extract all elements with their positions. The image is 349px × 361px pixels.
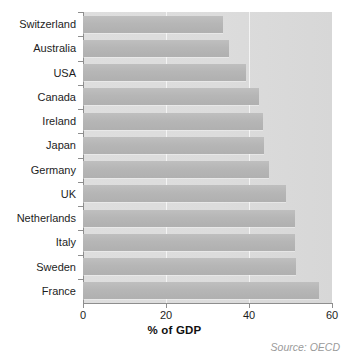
bar-row	[83, 109, 332, 133]
x-axis-tick-label: 60	[326, 309, 338, 321]
bar-row	[83, 182, 332, 206]
y-axis-label-italy: Italy	[56, 236, 76, 248]
bar-netherlands	[83, 210, 295, 227]
bar-chart-figure: SwitzerlandAustraliaUSACanadaIrelandJapa…	[0, 0, 349, 361]
y-axis-label-switzerland: Switzerland	[19, 18, 76, 30]
y-axis-label-netherlands: Netherlands	[17, 212, 76, 224]
y-axis-label-japan: Japan	[46, 139, 76, 151]
bar-canada	[83, 88, 259, 105]
bar-germany	[83, 161, 269, 178]
y-axis-label-canada: Canada	[37, 91, 76, 103]
bar-australia	[83, 40, 229, 57]
bar-switzerland	[83, 16, 223, 33]
bar-row	[83, 36, 332, 60]
bar-row	[83, 230, 332, 254]
x-axis-tick	[332, 304, 333, 308]
x-axis-tick-label: 0	[80, 309, 86, 321]
bar-italy	[83, 234, 295, 251]
plot-area	[83, 12, 332, 303]
bar-row	[83, 255, 332, 279]
bar-usa	[83, 64, 246, 81]
x-axis-tick	[166, 304, 167, 308]
bar-row	[83, 85, 332, 109]
bar-row	[83, 133, 332, 157]
bar-sweden	[83, 258, 296, 275]
bar-row	[83, 279, 332, 303]
y-axis-label-france: France	[42, 285, 76, 297]
bar-row	[83, 158, 332, 182]
bar-row	[83, 12, 332, 36]
y-axis-label-ireland: Ireland	[42, 115, 76, 127]
bar-row	[83, 206, 332, 230]
bar-japan	[83, 137, 264, 154]
bar-uk	[83, 185, 286, 202]
bar-row	[83, 61, 332, 85]
x-axis-title: % of GDP	[0, 324, 349, 336]
y-axis-label-australia: Australia	[33, 42, 76, 54]
x-axis-line	[83, 303, 333, 304]
y-axis-label-germany: Germany	[31, 164, 76, 176]
y-axis-label-sweden: Sweden	[36, 261, 76, 273]
y-axis-label-uk: UK	[61, 188, 76, 200]
bar-ireland	[83, 113, 263, 130]
bar-france	[83, 282, 319, 299]
x-axis-tick	[249, 304, 250, 308]
bars-group	[83, 12, 332, 303]
y-axis-label-usa: USA	[53, 67, 76, 79]
x-axis-tick-label: 40	[243, 309, 255, 321]
source-note: Source: OECD	[271, 341, 340, 353]
x-axis-tick-label: 20	[160, 309, 172, 321]
x-axis-tick	[83, 304, 84, 308]
